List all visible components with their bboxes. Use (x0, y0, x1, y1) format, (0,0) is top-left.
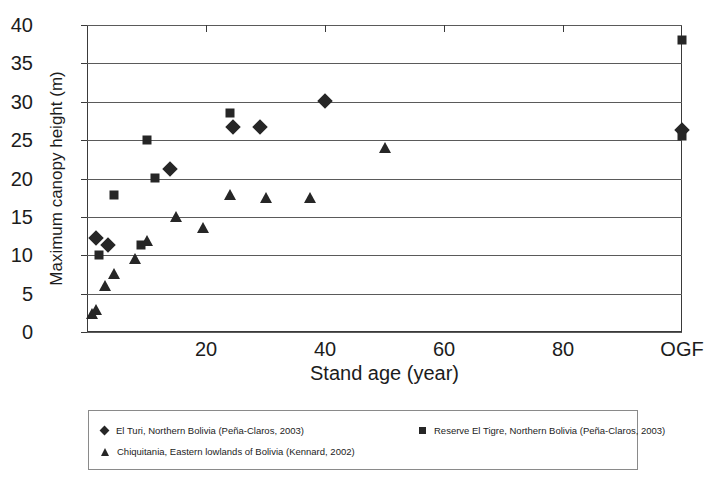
data-point-diamond (225, 119, 241, 135)
y-tick-label: 0 (0, 322, 33, 342)
data-point-triangle (99, 280, 111, 291)
data-point-diamond (252, 119, 268, 135)
legend-item-label: Reserve El Tigre, Northern Bolivia (Peña… (434, 425, 665, 436)
gridline (87, 63, 682, 64)
y-tick-label: 20 (0, 169, 33, 189)
data-point-diamond (163, 162, 179, 178)
x-tick-mark (444, 25, 445, 32)
y-tick-mark (81, 25, 87, 26)
legend-item-el-turi: El Turi, Northern Bolivia (Peña-Claros, … (101, 425, 304, 436)
y-tick-mark (81, 332, 87, 333)
diamond-marker-icon (100, 426, 110, 436)
data-point-triangle (170, 211, 182, 222)
x-tick-label: 20 (195, 338, 217, 360)
y-tick-label: 30 (0, 92, 33, 112)
x-tick-mark (563, 25, 564, 32)
data-point-square (109, 190, 118, 199)
x-tick-label: OGF (660, 338, 703, 360)
plot-frame (87, 25, 682, 332)
square-marker-icon (419, 427, 426, 434)
scatter-chart: Maximum canopy height (m) Stand age (yea… (0, 0, 726, 400)
y-tick-mark (81, 217, 87, 218)
y-tick-mark (81, 179, 87, 180)
legend-item-chiquitania: Chiquitania, Eastern lowlands of Bolivia… (101, 446, 355, 457)
gridline (87, 255, 682, 256)
data-point-square (94, 251, 103, 260)
y-tick-mark (81, 102, 87, 103)
gridline (87, 294, 682, 295)
gridline (87, 25, 682, 26)
y-axis-title: Maximum canopy height (m) (44, 25, 70, 332)
data-point-square (225, 109, 234, 118)
y-tick-mark (81, 140, 87, 141)
x-tick-label: 40 (314, 338, 336, 360)
y-tick-mark (81, 294, 87, 295)
data-point-square (678, 131, 687, 140)
gridline (87, 102, 682, 103)
x-tick-mark (206, 25, 207, 32)
y-tick-label: 25 (0, 130, 33, 150)
data-point-triangle (197, 222, 209, 233)
data-point-triangle (379, 142, 391, 153)
data-point-square (678, 36, 687, 45)
data-point-triangle (108, 268, 120, 279)
chart-legend: El Turi, Northern Bolivia (Peña-Claros, … (88, 410, 638, 470)
legend-item-label: Chiquitania, Eastern lowlands of Bolivia… (117, 446, 355, 457)
data-point-triangle (90, 304, 102, 315)
data-point-triangle (304, 192, 316, 203)
x-tick-mark (325, 25, 326, 32)
figure-container: Maximum canopy height (m) Stand age (yea… (0, 0, 726, 496)
y-tick-label: 15 (0, 207, 33, 227)
data-point-triangle (224, 189, 236, 200)
y-tick-label: 35 (0, 53, 33, 73)
data-point-triangle (129, 253, 141, 264)
x-tick-label: 60 (433, 338, 455, 360)
data-point-square (142, 136, 151, 145)
data-point-triangle (260, 192, 272, 203)
y-tick-label: 5 (0, 284, 33, 304)
data-point-diamond (317, 93, 333, 109)
gridline (87, 179, 682, 180)
x-tick-label: 80 (552, 338, 574, 360)
legend-item-label: El Turi, Northern Bolivia (Peña-Claros, … (116, 425, 304, 436)
y-tick-mark (81, 63, 87, 64)
y-tick-label: 10 (0, 245, 33, 265)
data-point-square (151, 173, 160, 182)
triangle-marker-icon (101, 448, 109, 456)
x-axis-title: Stand age (year) (87, 362, 682, 385)
legend-item-reserve-el-tigre: Reserve El Tigre, Northern Bolivia (Peña… (419, 425, 665, 436)
y-tick-label: 40 (0, 15, 33, 35)
y-tick-mark (81, 255, 87, 256)
data-point-triangle (141, 235, 153, 246)
gridline (87, 332, 682, 333)
